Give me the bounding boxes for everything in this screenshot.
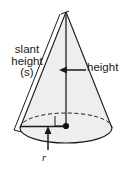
cone-diagram: slant height (s) height r (0, 0, 133, 171)
cone-figure-svg (0, 0, 133, 171)
slant-height-label: slant height (s) (3, 44, 51, 79)
radius-label: r (42, 152, 46, 163)
base-center-dot (63, 123, 69, 129)
height-label: height (87, 62, 118, 74)
slant-height-label-line3: (s) (3, 67, 51, 79)
slant-height-label-line1: slant (3, 44, 51, 56)
